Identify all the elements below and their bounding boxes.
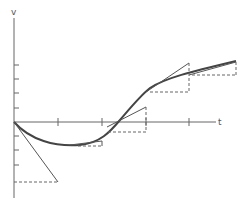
axes [14,18,216,198]
y-axis-label: v [11,7,17,17]
x-axis-label: t [218,117,222,127]
y-axis-ticks [14,65,19,165]
tangent-1 [14,122,58,182]
velocity-curve [14,61,236,145]
tangent-4 [146,63,189,92]
tangent-5 [189,62,236,75]
tangent-3 [107,107,146,127]
velocity-time-diagram: v t [0,0,248,212]
